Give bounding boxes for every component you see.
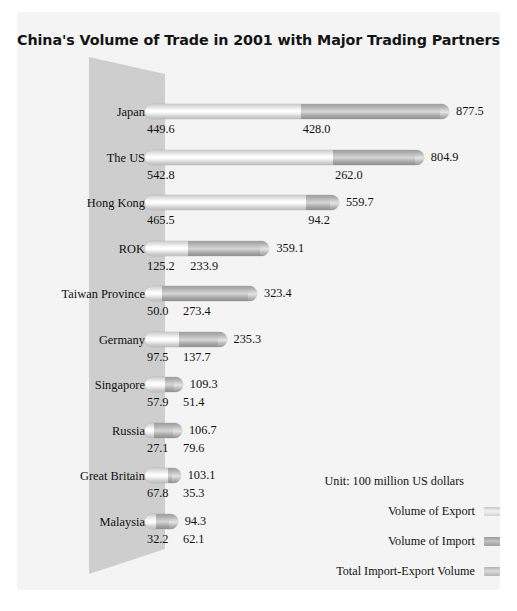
stacked-bar bbox=[145, 104, 449, 119]
stacked-bar bbox=[145, 332, 227, 347]
bar-segment-export bbox=[145, 332, 179, 347]
bar-import-value: 79.6 bbox=[183, 441, 205, 456]
bar-segment-export bbox=[145, 468, 168, 483]
bar-segment-import bbox=[333, 150, 424, 165]
bar-import-value: 51.4 bbox=[183, 395, 205, 410]
bar-segment-export bbox=[145, 195, 306, 210]
bar-category-label: Taiwan Province bbox=[62, 287, 145, 302]
stacked-bar bbox=[145, 286, 257, 301]
bar-total-value: 323.4 bbox=[264, 286, 292, 301]
bar-segment-export bbox=[145, 514, 156, 529]
bar-category-label: Russia bbox=[112, 424, 145, 439]
bar-category-label: Japan bbox=[117, 105, 145, 120]
bar-category-label: Malaysia bbox=[100, 515, 145, 530]
bar-segment-export bbox=[145, 286, 162, 301]
bar-total-value: 94.3 bbox=[185, 514, 207, 529]
chart-panel: China's Volume of Trade in 2001 with Maj… bbox=[17, 12, 500, 590]
bar-export-value: 97.5 bbox=[147, 350, 169, 365]
legend-swatch-import-icon bbox=[484, 537, 500, 546]
legend-label: Volume of Import bbox=[388, 534, 475, 549]
bar-row: Germany235.397.5137.7 bbox=[17, 328, 500, 374]
bar-category-label: Germany bbox=[99, 333, 145, 348]
bar-row: Hong Kong559.7465.594.2 bbox=[17, 191, 500, 237]
legend-swatch-total-icon bbox=[484, 567, 500, 576]
bar-import-value: 94.2 bbox=[308, 213, 330, 228]
bar-total-value: 804.9 bbox=[431, 150, 459, 165]
bar-export-value: 449.6 bbox=[147, 122, 175, 137]
legend-item-volume-of-import: Volume of Import bbox=[262, 534, 500, 549]
bar-row: Taiwan Province323.450.0273.4 bbox=[17, 282, 500, 328]
bar-category-label: Singapore bbox=[95, 378, 145, 393]
legend-swatch-export-icon bbox=[484, 507, 500, 516]
bar-total-value: 235.3 bbox=[234, 332, 262, 347]
bar-export-value: 125.2 bbox=[147, 259, 175, 274]
legend-label: Total Import-Export Volume bbox=[336, 564, 475, 579]
bar-total-value: 559.7 bbox=[346, 195, 374, 210]
bar-import-value: 233.9 bbox=[190, 259, 218, 274]
bar-row: Russia106.727.179.6 bbox=[17, 419, 500, 465]
stacked-bar bbox=[145, 195, 339, 210]
stacked-bar bbox=[145, 468, 181, 483]
bar-export-value: 27.1 bbox=[147, 441, 169, 456]
bar-export-value: 32.2 bbox=[147, 532, 169, 547]
bar-import-value: 273.4 bbox=[183, 304, 211, 319]
legend-item-volume-of-export: Volume of Export bbox=[262, 504, 500, 519]
bar-row: ROK359.1125.2233.9 bbox=[17, 237, 500, 283]
bar-end-cap bbox=[169, 514, 178, 529]
bar-segment-export bbox=[145, 423, 154, 438]
bar-category-label: The US bbox=[107, 151, 145, 166]
chart-legend: Unit: 100 million US dollars Volume of E… bbox=[262, 474, 500, 594]
bar-segment-import bbox=[188, 241, 269, 256]
bar-category-label: ROK bbox=[119, 242, 145, 257]
legend-label: Volume of Export bbox=[388, 504, 475, 519]
bar-total-value: 109.3 bbox=[190, 377, 218, 392]
bar-export-value: 50.0 bbox=[147, 304, 169, 319]
bar-end-cap bbox=[218, 332, 227, 347]
bar-total-value: 106.7 bbox=[189, 423, 217, 438]
bar-import-value: 428.0 bbox=[303, 122, 331, 137]
bar-segment-export bbox=[145, 150, 333, 165]
bar-category-label: Hong Kong bbox=[87, 196, 145, 211]
bar-segment-import bbox=[301, 104, 449, 119]
bar-total-value: 103.1 bbox=[188, 468, 216, 483]
bar-total-value: 359.1 bbox=[276, 241, 304, 256]
stacked-bar bbox=[145, 150, 424, 165]
bar-total-value: 877.5 bbox=[456, 104, 484, 119]
legend-unit-note: Unit: 100 million US dollars bbox=[262, 474, 500, 489]
bar-segment-export bbox=[145, 104, 301, 119]
bar-export-value: 542.8 bbox=[147, 168, 175, 183]
bar-import-value: 62.1 bbox=[183, 532, 205, 547]
bar-row: Japan877.5449.6428.0 bbox=[17, 100, 500, 146]
bar-import-value: 262.0 bbox=[335, 168, 363, 183]
bar-import-value: 35.3 bbox=[183, 486, 205, 501]
bar-import-value: 137.7 bbox=[183, 350, 211, 365]
bar-row: Singapore109.357.951.4 bbox=[17, 373, 500, 419]
bar-category-label: Great Britain bbox=[80, 469, 145, 484]
bar-export-value: 465.5 bbox=[147, 213, 175, 228]
bar-row: The US804.9542.8262.0 bbox=[17, 146, 500, 192]
bar-export-value: 57.9 bbox=[147, 395, 169, 410]
bar-export-value: 67.8 bbox=[147, 486, 169, 501]
stacked-bar bbox=[145, 514, 178, 529]
stacked-bar bbox=[145, 377, 183, 392]
legend-item-total-import-export-volume: Total Import-Export Volume bbox=[262, 564, 500, 579]
stacked-bar bbox=[145, 423, 182, 438]
bar-segment-import bbox=[162, 286, 257, 301]
bar-segment-export bbox=[145, 241, 188, 256]
stacked-bar bbox=[145, 241, 269, 256]
bar-segment-export bbox=[145, 377, 165, 392]
